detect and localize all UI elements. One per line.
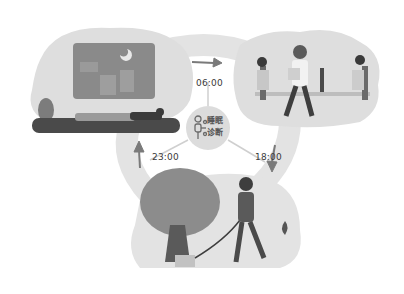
center-hub: 睡眠 诊断 [186, 106, 230, 150]
center-label: 睡眠 诊断 [207, 115, 223, 139]
scene-walk [131, 168, 301, 268]
sleep-tracker-icon [193, 115, 207, 141]
time-night: 23:00 [152, 152, 179, 162]
time-evening: 18:00 [255, 152, 282, 162]
scene-sleep [30, 28, 193, 133]
scene-work [233, 30, 379, 127]
time-morning: 06:00 [196, 78, 223, 88]
center-label-line2: 诊断 [207, 127, 223, 139]
center-label-line1: 睡眠 [207, 115, 223, 127]
